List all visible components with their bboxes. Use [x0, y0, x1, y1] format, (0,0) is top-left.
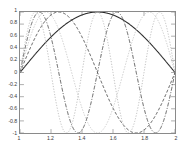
figure-canvas: -1-0.8-0.6-0.4-0.200.20.40.60.81 11.21.4… [0, 0, 185, 152]
x-axis-tick-labels: 11.21.41.61.82 [19, 136, 176, 144]
y-tick-label: -0.8 [0, 119, 17, 124]
x-tick-label: 1 [18, 136, 21, 141]
x-tick-label: 1.2 [47, 136, 54, 141]
curve-harmonic-4 [20, 12, 175, 133]
y-tick-label: -0.4 [0, 94, 17, 99]
y-tick-label: 0 [0, 70, 17, 75]
x-tick-label: 1.8 [141, 136, 148, 141]
x-tick-label: 1.4 [78, 136, 85, 141]
y-axis-tick-labels: -1-0.8-0.6-0.4-0.200.20.40.60.81 [0, 11, 17, 134]
y-tick-label: -0.6 [0, 107, 17, 112]
plot-axes-frame [19, 11, 176, 134]
y-tick-label: 0.4 [0, 45, 17, 50]
y-tick-label: -0.2 [0, 82, 17, 87]
y-tick-label: -1 [0, 131, 17, 136]
x-tick-label: 1.6 [110, 136, 117, 141]
y-tick-label: 0.2 [0, 58, 17, 63]
plot-curves [20, 12, 175, 133]
curve-harmonic-1 [20, 12, 175, 73]
y-tick-label: 0.6 [0, 33, 17, 38]
y-tick-label: 1 [0, 8, 17, 13]
x-tick-label: 2 [175, 136, 178, 141]
y-tick-label: 0.8 [0, 21, 17, 26]
